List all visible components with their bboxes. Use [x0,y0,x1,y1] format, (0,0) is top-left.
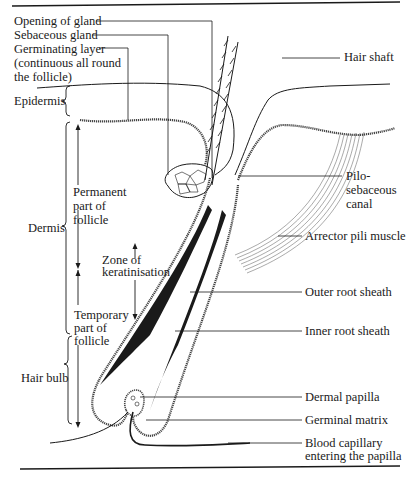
label-germinal-matrix: Germinal matrix [305,414,388,427]
label-dermis: Dermis [28,222,65,235]
label-arrector-pili: Arrector pili muscle [305,230,406,243]
label-pilosebaceous-3: canal [346,198,372,211]
bottom-rule [20,466,400,469]
label-temporary-3: follicle [74,335,109,348]
label-germinating-layer-3: the follicle) [14,71,72,84]
label-permanent-3: follicle [73,214,108,227]
label-blood-capillary-2: entering the papilla [305,450,402,463]
hair-shaft [205,36,238,185]
label-germinating-layer-1: Germinating layer [14,43,105,56]
label-permanent-2: part of [73,200,106,213]
skin-surface-left [37,83,234,175]
label-hair-shaft: Hair shaft [344,51,394,64]
arrector-pili-muscle [235,132,364,273]
label-sebaceous-gland: Sebaceous gland [14,29,98,42]
label-permanent-1: Permanent [73,186,126,199]
label-hair-bulb: Hair bulb [21,372,69,385]
label-dermal-papilla: Dermal papilla [305,391,380,404]
label-inner-root-sheath: Inner root sheath [305,325,390,338]
top-rule [12,2,400,6]
blood-capillary [130,412,250,446]
label-germinating-layer-2: (continuous all round [14,57,121,70]
germinating-layer-left [80,119,207,165]
label-epidermis: Epidermis [14,95,65,108]
label-opening-of-gland: Opening of gland [14,15,101,28]
leader-opening-of-gland [96,21,212,178]
germinating-layer-right [238,125,395,180]
label-outer-root-sheath: Outer root sheath [305,286,392,299]
label-pilosebaceous-2: sebaceous [346,184,397,197]
label-pilosebaceous-1: Pilo- [346,170,370,183]
skin-base-curve [50,412,128,443]
label-zone-keratinisation-2: keratinisation [102,266,170,279]
